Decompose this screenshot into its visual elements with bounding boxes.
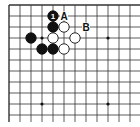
star-point — [40, 102, 43, 105]
black-stone — [26, 33, 36, 43]
black-stone — [37, 44, 47, 54]
star-point — [40, 36, 43, 39]
white-stone — [59, 44, 69, 54]
white-stone — [70, 33, 80, 43]
star-point — [106, 36, 109, 39]
white-stone — [59, 22, 69, 32]
point-label-a: A — [60, 11, 67, 22]
point-label-b: B — [82, 22, 89, 33]
grid-lines — [9, 5, 140, 122]
black-stone — [48, 22, 58, 32]
go-board: AB 1 — [0, 0, 140, 127]
star-point — [106, 102, 109, 105]
stones: 1 — [26, 11, 80, 54]
move-number: 1 — [51, 12, 56, 21]
black-stone — [48, 44, 58, 54]
white-stone — [48, 33, 58, 43]
